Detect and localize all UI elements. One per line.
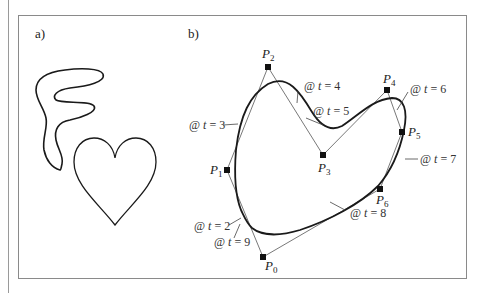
knot-label-t2: @ t = 2 <box>194 219 230 233</box>
knot-label-t7: @ t = 7 <box>420 152 456 166</box>
knot-label-t8: @ t = 8 <box>350 206 386 220</box>
label-p2: P2 <box>261 46 274 63</box>
knot-label-t9: @ t = 9 <box>214 235 250 249</box>
panel-b-label: b) <box>188 26 199 41</box>
heart-shape <box>74 138 156 225</box>
label-p0: P0 <box>264 258 278 275</box>
label-p1: P1 <box>209 162 222 179</box>
knot-label-t6: @ t = 6 <box>410 82 446 96</box>
control-point-p3 <box>320 152 326 158</box>
label-p3: P3 <box>317 160 331 177</box>
freeform-blob-shape <box>36 69 103 170</box>
control-point-p1 <box>224 167 230 173</box>
knot-label-t5: @ t = 5 <box>313 104 349 118</box>
control-point-p2 <box>265 64 271 70</box>
control-point-markers <box>224 64 405 260</box>
knot-label-t4: @ t = 4 <box>304 79 340 93</box>
knot-label-t3: @ t = 3 <box>189 118 225 132</box>
control-point-p4 <box>384 87 390 93</box>
figure-canvas: a) b) P0 P1 P2 P3 P4 P5 P6 <box>0 0 480 293</box>
control-point-p5 <box>399 129 405 135</box>
label-p4: P4 <box>382 71 396 88</box>
panel-a-label: a) <box>35 26 45 41</box>
label-p5: P5 <box>407 124 421 141</box>
